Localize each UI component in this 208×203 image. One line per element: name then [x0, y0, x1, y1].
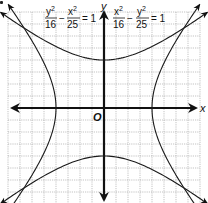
svg-text:25: 25: [136, 19, 148, 30]
svg-text:16: 16: [45, 19, 57, 30]
svg-text:x2: x2: [68, 5, 77, 17]
equation-label-vertical-hyperbola: y2 16 − x2 25 = 1: [45, 5, 97, 30]
x-axis-label: x: [199, 102, 206, 114]
origin-label: O: [93, 111, 102, 123]
svg-text:x2: x2: [114, 5, 123, 17]
svg-text:−: −: [127, 13, 133, 24]
svg-text:= 1: = 1: [82, 13, 97, 24]
svg-text:16: 16: [113, 19, 125, 30]
svg-text:= 1: = 1: [151, 13, 166, 24]
svg-text:y2: y2: [137, 5, 146, 17]
y-axis-label: y: [100, 0, 108, 12]
hyperbola-graph: y x O y2 16 − x2 25 = 1 x2 16 − y2 25 = …: [0, 0, 208, 203]
svg-text:y2: y2: [46, 5, 55, 17]
svg-text:25: 25: [67, 19, 79, 30]
svg-text:−: −: [59, 13, 65, 24]
equation-label-horizontal-hyperbola: x2 16 − y2 25 = 1: [113, 5, 166, 30]
